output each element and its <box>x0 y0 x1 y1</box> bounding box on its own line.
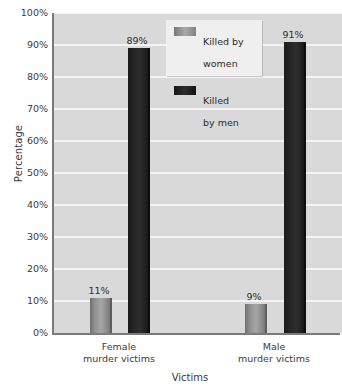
y-tick-label: 30% <box>6 232 48 242</box>
legend-item-killed-by-women: Killed by women <box>174 25 262 80</box>
bar-value-label: 89% <box>116 35 158 46</box>
y-tick-label: 60% <box>6 136 48 146</box>
y-tick-label: 100% <box>6 8 48 18</box>
chart-legend: Killed by women Killed by men <box>166 20 262 76</box>
bar <box>90 298 112 333</box>
legend-swatch-icon-men <box>174 86 196 95</box>
legend-item-killed-by-men: Killed by men <box>174 84 262 139</box>
bar <box>128 48 150 333</box>
legend-label-women-line1: Killed by <box>203 36 244 47</box>
x-category-label-female: Female murder victims <box>54 341 184 365</box>
x-category-label-male: Male murder victims <box>209 341 339 365</box>
legend-label-men-line2: by men <box>203 117 239 128</box>
y-tick-label: 70% <box>6 104 48 114</box>
bar <box>284 42 306 333</box>
x-axis-line <box>52 333 340 335</box>
legend-label-men: Killed by men <box>203 84 239 139</box>
x-category-line1: Male <box>209 341 339 353</box>
legend-label-women-line2: women <box>203 58 244 69</box>
y-tick-label: 80% <box>6 72 48 82</box>
bar-value-label: 11% <box>78 285 120 296</box>
y-tick-label: 10% <box>6 296 48 306</box>
bar-value-label: 9% <box>233 291 275 302</box>
x-axis-title-text: Victims <box>172 372 209 383</box>
gridline <box>54 13 342 14</box>
x-category-line2: murder victims <box>54 353 184 365</box>
legend-swatch-icon-women <box>174 27 196 36</box>
y-tick-label: 50% <box>6 168 48 178</box>
y-tick-label: 40% <box>6 200 48 210</box>
y-tick-label: 90% <box>6 40 48 50</box>
y-tick-label: 20% <box>6 264 48 274</box>
x-category-line2: murder victims <box>209 353 339 365</box>
y-axis-tick-labels: 100% 90% 80% 70% 60% 50% 40% 30% 20% 10%… <box>6 13 48 333</box>
x-axis-title: Victims <box>0 372 340 383</box>
y-tick-label: 0% <box>6 328 48 338</box>
bar-value-label: 91% <box>272 29 314 40</box>
bar <box>245 304 267 333</box>
legend-label-men-line1: Killed <box>203 95 239 106</box>
x-category-line1: Female <box>54 341 184 353</box>
legend-label-women: Killed by women <box>203 25 244 80</box>
